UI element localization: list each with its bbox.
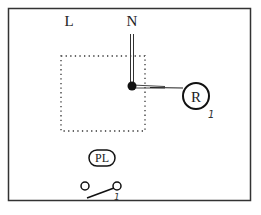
ceiling-rose: R bbox=[183, 83, 209, 109]
pilot-light-label: PL bbox=[95, 151, 109, 165]
diagram-frame bbox=[9, 9, 251, 201]
junction-dot bbox=[128, 82, 137, 91]
switch-mark: 1 bbox=[114, 192, 120, 202]
rose-wire bbox=[132, 85, 183, 88]
rose-mark: 1 bbox=[208, 109, 214, 120]
neutral-label: N bbox=[127, 13, 138, 29]
pilot-light: PL bbox=[89, 150, 115, 166]
junction-box bbox=[61, 56, 145, 131]
rose-label: R bbox=[191, 89, 201, 105]
neutral-wire bbox=[131, 34, 134, 86]
live-label: L bbox=[64, 13, 73, 29]
wiring-diagram: L N R 1 PL 1 bbox=[0, 0, 261, 215]
